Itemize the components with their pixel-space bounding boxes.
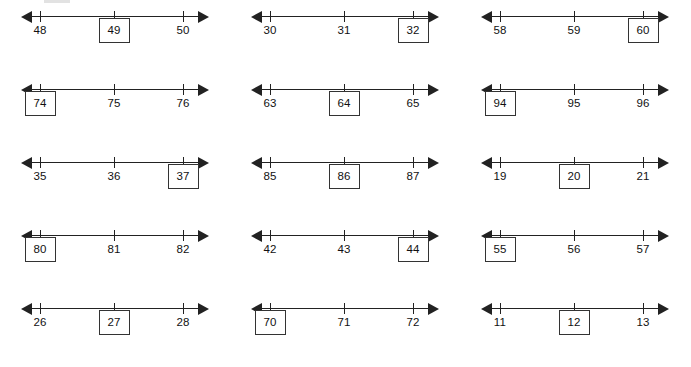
- tick-label: 81: [94, 243, 134, 256]
- tick-mark: [413, 84, 414, 95]
- tick-label: 95: [554, 97, 594, 110]
- number-line-axis: 707172: [252, 308, 438, 310]
- tick-mark: [643, 157, 644, 168]
- axis-line: [30, 162, 200, 163]
- tick-label: 21: [623, 170, 663, 183]
- tick-mark: [40, 303, 41, 314]
- arrow-right-icon: [198, 84, 209, 96]
- answer-box[interactable]: 49: [99, 18, 130, 43]
- answer-box[interactable]: 32: [398, 18, 429, 43]
- arrow-left-icon: [251, 84, 262, 96]
- axis-line: [260, 235, 430, 236]
- number-line-problem: 747576: [0, 73, 230, 146]
- number-line-problem: 949596: [460, 73, 690, 146]
- answer-box[interactable]: 27: [99, 310, 130, 335]
- number-line-problem: 808182: [0, 219, 230, 292]
- tick-mark: [574, 11, 575, 22]
- number-line-problem: 192021: [460, 146, 690, 219]
- answer-box[interactable]: 80: [25, 237, 56, 262]
- number-line-axis: 262728: [22, 308, 208, 310]
- number-line-axis: 747576: [22, 89, 208, 91]
- tick-label: 28: [163, 316, 203, 329]
- tick-label: 63: [250, 97, 290, 110]
- tick-mark: [574, 230, 575, 241]
- tick-mark: [183, 11, 184, 22]
- arrow-left-icon: [251, 11, 262, 23]
- number-line-worksheet-grid: 4849503031325859607475766364659495963536…: [0, 0, 691, 367]
- answer-box[interactable]: 55: [485, 237, 516, 262]
- answer-box[interactable]: 94: [485, 91, 516, 116]
- axis-line: [260, 162, 430, 163]
- arrow-left-icon: [21, 303, 32, 315]
- tick-mark: [270, 84, 271, 95]
- number-line-axis: 555657: [482, 235, 668, 237]
- arrow-right-icon: [428, 157, 439, 169]
- tick-label: 35: [20, 170, 60, 183]
- tick-mark: [344, 230, 345, 241]
- axis-line: [490, 89, 660, 90]
- tick-label: 65: [393, 97, 433, 110]
- number-line-axis: 111213: [482, 308, 668, 310]
- tick-label: 30: [250, 24, 290, 37]
- axis-line: [490, 162, 660, 163]
- arrow-left-icon: [481, 11, 492, 23]
- answer-box[interactable]: 20: [559, 164, 590, 189]
- axis-line: [490, 235, 660, 236]
- tick-mark: [643, 84, 644, 95]
- tick-mark: [114, 84, 115, 95]
- tick-label: 26: [20, 316, 60, 329]
- arrow-right-icon: [428, 303, 439, 315]
- answer-box[interactable]: 86: [329, 164, 360, 189]
- axis-line: [490, 16, 660, 17]
- arrow-left-icon: [481, 303, 492, 315]
- tick-label: 72: [393, 316, 433, 329]
- arrow-right-icon: [658, 303, 669, 315]
- axis-line: [260, 308, 430, 309]
- tick-mark: [413, 157, 414, 168]
- arrow-left-icon: [21, 11, 32, 23]
- tick-mark: [270, 230, 271, 241]
- arrow-right-icon: [198, 303, 209, 315]
- answer-box[interactable]: 44: [398, 237, 429, 262]
- arrow-right-icon: [658, 11, 669, 23]
- arrow-right-icon: [658, 84, 669, 96]
- tick-mark: [270, 157, 271, 168]
- number-line-problem: 303132: [230, 0, 460, 73]
- number-line-axis: 808182: [22, 235, 208, 237]
- tick-label: 13: [623, 316, 663, 329]
- answer-box[interactable]: 64: [329, 91, 360, 116]
- arrow-right-icon: [198, 11, 209, 23]
- number-line-problem: 858687: [230, 146, 460, 219]
- tick-label: 56: [554, 243, 594, 256]
- number-line-axis: 424344: [252, 235, 438, 237]
- arrow-left-icon: [481, 157, 492, 169]
- arrow-right-icon: [658, 157, 669, 169]
- axis-line: [260, 16, 430, 17]
- tick-label: 50: [163, 24, 203, 37]
- arrow-left-icon: [251, 157, 262, 169]
- axis-line: [30, 308, 200, 309]
- arrow-left-icon: [21, 157, 32, 169]
- answer-box[interactable]: 12: [559, 310, 590, 335]
- axis-line: [260, 89, 430, 90]
- tick-mark: [183, 84, 184, 95]
- tick-label: 58: [480, 24, 520, 37]
- tick-mark: [344, 303, 345, 314]
- arrow-right-icon: [198, 157, 209, 169]
- answer-box[interactable]: 74: [25, 91, 56, 116]
- tick-label: 76: [163, 97, 203, 110]
- tick-label: 31: [324, 24, 364, 37]
- tick-mark: [270, 11, 271, 22]
- answer-box[interactable]: 60: [628, 18, 659, 43]
- answer-box[interactable]: 70: [255, 310, 286, 335]
- number-line-problem: 424344: [230, 219, 460, 292]
- tick-mark: [643, 230, 644, 241]
- tick-label: 11: [480, 316, 520, 329]
- tick-mark: [183, 230, 184, 241]
- number-line-problem: 353637: [0, 146, 230, 219]
- tick-mark: [40, 11, 41, 22]
- answer-box[interactable]: 37: [168, 164, 199, 189]
- number-line-axis: 949596: [482, 89, 668, 91]
- tick-mark: [500, 11, 501, 22]
- tick-label: 48: [20, 24, 60, 37]
